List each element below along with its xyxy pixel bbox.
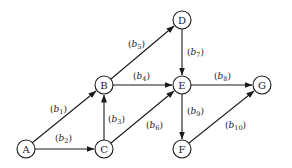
edge-label-b5: (b5) — [128, 39, 145, 51]
node-e: E — [173, 76, 191, 94]
node-d: D — [173, 11, 191, 29]
svg-text:B: B — [100, 80, 107, 91]
svg-text:F: F — [179, 144, 186, 155]
node-f: F — [173, 140, 191, 158]
edge-label-b1: (b1) — [50, 104, 67, 116]
edge-label-b9: (b9) — [187, 106, 204, 118]
edge-label-b6: (b6) — [146, 120, 163, 132]
graph-canvas: (b1) (b2) (b3) (b4) (b5) (b6) (b7) (b8) … — [0, 0, 292, 168]
node-c: C — [95, 140, 113, 158]
edge-label-b7: (b7) — [187, 47, 204, 59]
edge-label-b3: (b3) — [108, 114, 125, 126]
svg-text:D: D — [178, 15, 186, 26]
svg-text:G: G — [258, 80, 266, 91]
svg-text:E: E — [178, 80, 185, 91]
svg-text:A: A — [21, 144, 30, 155]
svg-text:C: C — [100, 144, 108, 155]
node-g: G — [253, 76, 271, 94]
node-b: B — [95, 76, 113, 94]
edge-label-b4: (b4) — [133, 71, 150, 83]
node-a: A — [17, 140, 35, 158]
edge-label-b10: (b10) — [225, 120, 246, 132]
edge-b5 — [111, 26, 174, 79]
edge-label-b2: (b2) — [55, 133, 72, 145]
edge-label-b8: (b8) — [214, 71, 231, 83]
